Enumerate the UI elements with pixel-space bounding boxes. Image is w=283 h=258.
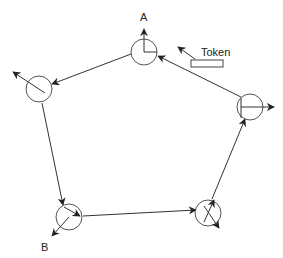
edge-left-to-b (42, 103, 63, 205)
token-arrow-icon (178, 47, 195, 59)
edge-a-to-left (52, 54, 131, 84)
node-b-label: B (41, 241, 48, 253)
node-right (237, 94, 274, 120)
node-a: A (131, 11, 157, 65)
ring-edges (42, 54, 245, 216)
node-b-out-arrow-icon (52, 217, 69, 236)
token: Token (178, 46, 230, 67)
node-left (13, 72, 52, 102)
token-ring-diagram: A B Token (0, 0, 283, 258)
node-b-inner-arrow-icon (64, 207, 80, 216)
node-a-label: A (140, 11, 148, 23)
token-rect (191, 60, 223, 67)
node-left-out-arrow-icon (13, 72, 45, 93)
token-label: Token (201, 46, 230, 58)
node-b: B (41, 204, 82, 253)
node-bottom-right (195, 200, 221, 228)
edge-b-to-bottom-right (83, 210, 196, 216)
edge-bottom-right-to-right (212, 119, 245, 199)
